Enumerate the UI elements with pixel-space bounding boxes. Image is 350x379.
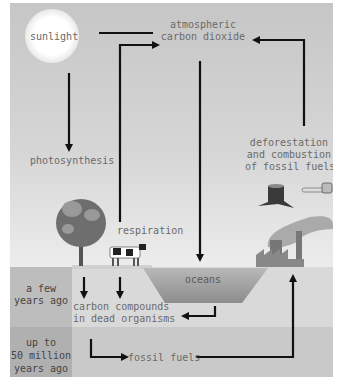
recent-line2: years ago [10, 295, 72, 307]
defor-line1: deforestation [245, 137, 333, 149]
recent-line1: a few [10, 283, 72, 295]
sunlight-label: sunlight [30, 31, 78, 43]
carbon-cycle-diagram: sunlight atmospheric carbon dioxide phot… [10, 3, 333, 377]
defor-line3: of fossil fuels [245, 161, 333, 173]
oceans-label: oceans [185, 274, 221, 286]
defor-line2: and combustion [245, 149, 333, 161]
dead-line2: in dead organisms [73, 313, 175, 325]
old-line3: years ago [10, 362, 72, 375]
tree-icon [56, 199, 106, 266]
time-label-ancient: up to 50 million years ago [10, 336, 72, 375]
old-line1: up to [10, 336, 72, 349]
atmo-line2: carbon dioxide [158, 31, 248, 43]
photosynthesis-label: photosynthesis [30, 155, 114, 167]
cow-icon [110, 244, 146, 266]
chainsaw-icon [302, 183, 332, 193]
deforestation-label: deforestation and combustion of fossil f… [245, 137, 333, 173]
time-label-recent: a few years ago [10, 283, 72, 307]
atmospheric-co2-label: atmospheric carbon dioxide [158, 19, 248, 43]
dead-organisms-label: carbon compounds in dead organisms [73, 301, 175, 325]
dead-line1: carbon compounds [73, 301, 175, 313]
respiration-label: respiration [117, 225, 183, 237]
atmo-line1: atmospheric [158, 19, 248, 31]
old-line2: 50 million [10, 349, 72, 362]
fossil-fuels-label: fossil fuels [128, 352, 200, 364]
stump-icon [258, 184, 294, 208]
